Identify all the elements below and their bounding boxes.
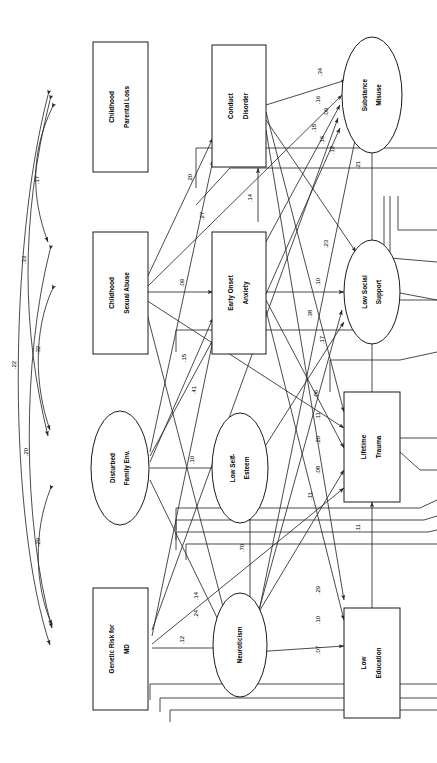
cov-cpl-dfe — [28, 100, 50, 436]
node-layer: Childhood Parental Loss Childhood Sexual… — [91, 37, 402, 718]
path-neu-sm — [254, 135, 356, 636]
edge-label-dfe-lse: .10 — [188, 455, 195, 464]
node-shape-ellipse — [342, 37, 402, 153]
edge-label-led-lt: .11 — [354, 523, 361, 532]
node-label-line2: Support — [375, 279, 383, 304]
node-label-line2: Esteem — [243, 456, 250, 479]
edge-label-csa-sm: .16 — [314, 95, 321, 104]
edge-label-cov-csa-dfe: .32 — [34, 345, 41, 354]
node-shape-rect — [212, 232, 266, 354]
edge-label-dfe-cd: .27 — [198, 211, 205, 220]
edge-label-cov-csa-grm: .20 — [22, 447, 29, 456]
edge-label-csa-lt: .11 — [314, 411, 321, 420]
edge-label-csa-neu: .14 — [192, 591, 199, 600]
node-neuroticism[interactable]: Neuroticism — [213, 593, 267, 697]
edge-label-eoa-lss: .10 — [314, 277, 321, 286]
node-label-line1: Neuroticism — [236, 626, 243, 663]
node-childhood-sexual-abuse[interactable]: Childhood Sexual Abuse — [93, 232, 148, 354]
edge-label-eoa-sm: .16 — [318, 135, 325, 144]
path-cd-sm — [266, 80, 346, 105]
routed-line-13 — [390, 196, 437, 262]
node-label-line1: Childhood — [108, 91, 115, 123]
node-label-line1: Low — [360, 657, 367, 670]
edge-label-neu-lse: .70 — [238, 543, 245, 552]
node-label-line1: Childhood — [108, 277, 115, 309]
path-cd-led — [266, 130, 344, 600]
node-label-line2: Sexual Abuse — [123, 272, 130, 314]
node-shape-rect — [344, 392, 400, 502]
node-label-line1: Genetic Risk for — [108, 624, 115, 674]
node-early-onset-anxiety[interactable]: Early Onset Anxiety — [212, 232, 266, 354]
node-label-line2: Family Env. — [123, 450, 131, 485]
edge-label-cov-cpl-dfe: .33 — [20, 255, 27, 264]
edge-label-neu-led: .07 — [314, 645, 321, 654]
edge-label-layer: .17 .32 .29 .33 .20 .22 .20 .27 .14 .09 … — [10, 67, 361, 654]
node-low-self-esteem[interactable]: Low Self- Esteem — [212, 413, 268, 523]
edge-label-cd-lss: .23 — [322, 239, 329, 248]
node-shape-rect — [344, 608, 400, 718]
edge-label-lt-sm: .21 — [354, 160, 361, 169]
path-diagram-canvas: Childhood Parental Loss Childhood Sexual… — [0, 0, 437, 763]
path-eoa-led — [266, 310, 344, 620]
edge-label-eoa-led: .10 — [314, 615, 321, 624]
routed-line-12 — [398, 196, 437, 230]
edge-label-neu-lss: .38 — [306, 309, 313, 318]
edge-label-cd-led: .29 — [314, 585, 321, 594]
edge-label-cd-sm: .34 — [316, 67, 323, 76]
edge-label-csa-eoa: .09 — [178, 278, 185, 287]
node-disturbed-family-env[interactable]: Disturbed Family Env. — [91, 411, 149, 525]
edge-label-cov-dfe-grm: .29 — [34, 537, 41, 546]
node-shape-rect — [93, 588, 148, 710]
node-low-education[interactable]: Low Education — [344, 608, 400, 718]
node-low-social-support[interactable]: Low Social Support — [344, 240, 400, 344]
node-label-line2: Disorder — [242, 92, 249, 119]
node-label-line1: Disturbed — [109, 453, 116, 483]
node-label-line2: Parental Loss — [123, 86, 130, 128]
node-shape-ellipse — [344, 240, 400, 344]
node-substance-misuse[interactable]: Substance Misuse — [342, 37, 402, 153]
node-label-line2: Anxiety — [242, 281, 250, 305]
edge-label-grm-lt: .11 — [306, 491, 313, 500]
node-label-line1: Substance — [361, 78, 368, 111]
edge-label-cd-lt: .06 — [312, 389, 319, 398]
edge-label-dfe-eoa: .15 — [180, 353, 187, 362]
routed-line-5 — [176, 516, 437, 540]
edge-label-csa-cd: .20 — [186, 173, 193, 182]
node-label-line2: MD — [123, 644, 130, 654]
edge-label-lse-lss: .17 — [318, 335, 325, 344]
node-label-line2: Trauma — [375, 435, 382, 458]
edge-label-eoa-cd: .14 — [246, 193, 253, 202]
node-shape-ellipse — [212, 413, 268, 523]
path-neu-led — [254, 646, 344, 652]
node-label-line2: Education — [375, 647, 382, 678]
node-shape-ellipse — [91, 411, 149, 525]
node-lifetime-trauma[interactable]: Lifetime Trauma — [344, 392, 400, 502]
node-label-line2: Misuse — [375, 84, 382, 106]
routed-line-16 — [400, 452, 437, 470]
node-genetic-risk-for-md[interactable]: Genetic Risk for MD — [93, 588, 148, 710]
node-conduct-disorder[interactable]: Conduct Disorder — [212, 45, 266, 167]
path-csa-cd — [146, 138, 213, 280]
node-label-line1: Early Onset — [227, 274, 235, 310]
cov-dfe-grm — [38, 490, 52, 625]
edge-label-eoa-lt: .20 — [314, 435, 321, 444]
node-shape-rect — [93, 232, 148, 354]
node-shape-rect — [93, 42, 148, 172]
diagram-page: Childhood Parental Loss Childhood Sexual… — [0, 0, 437, 763]
path-neu-lt — [254, 470, 344, 620]
cov-csa-dfe — [38, 290, 52, 430]
routed-line-11 — [330, 352, 437, 392]
edge-label-cov-cpl-grm: .22 — [10, 360, 17, 369]
node-childhood-parental-loss[interactable]: Childhood Parental Loss — [93, 42, 148, 172]
edge-label-dfe-sm: .09 — [322, 107, 329, 116]
node-label-line1: Conduct — [227, 92, 234, 119]
node-shape-rect — [212, 45, 266, 167]
edge-label-dfe-neu: .24 — [192, 609, 199, 618]
node-label-line1: Low Self- — [229, 454, 236, 482]
routed-line-4 — [176, 500, 437, 530]
path-dfe-eoa — [150, 318, 213, 462]
routed-line-2 — [196, 168, 437, 205]
edge-label-grm-eoa: .41 — [190, 385, 197, 394]
edge-label-cov-cpl-csa: .17 — [33, 175, 40, 184]
edge-label-grm-neu: .12 — [178, 635, 185, 644]
